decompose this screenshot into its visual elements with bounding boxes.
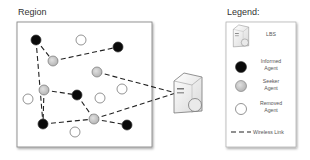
lbs-server-icon: [174, 73, 202, 113]
removed-agent-node: [95, 93, 105, 103]
seeker-agent-node: [92, 67, 102, 77]
removed-agent-node: [76, 35, 86, 45]
informed-agent-icon: [236, 62, 247, 73]
removed-agent-node: [23, 94, 33, 104]
seeker-agent-node: [48, 56, 58, 66]
informed-agent-node: [113, 42, 123, 52]
removed-agent-icon: [236, 104, 247, 115]
legend-label-lbs: LBS: [266, 31, 276, 37]
legend-label-removed-1: Removed: [260, 100, 282, 106]
informed-agent-node: [31, 35, 41, 45]
legend-label-seeker-2: Agent: [264, 85, 278, 91]
seeker-agent-icon: [236, 81, 247, 92]
removed-agent-node: [117, 84, 127, 94]
informed-agent-node: [38, 119, 48, 129]
legend-label-seeker-1: Seeker: [263, 78, 280, 84]
legend-label-informed-2: Agent: [264, 65, 278, 71]
legend-label-informed-1: Informed: [261, 58, 282, 64]
removed-agent-node: [70, 127, 80, 137]
informed-agent-node: [122, 120, 132, 130]
server-icon: [233, 25, 248, 47]
seeker-agent-node: [39, 85, 49, 95]
diagram-canvas: LBS Informed Agent Seeker Agent Removed …: [0, 0, 310, 160]
legend-label-removed-2: Agent: [264, 107, 278, 113]
legend-label-wireless: Wireless Link: [253, 129, 284, 135]
informed-agent-node: [72, 90, 82, 100]
seeker-agent-node: [89, 114, 99, 124]
